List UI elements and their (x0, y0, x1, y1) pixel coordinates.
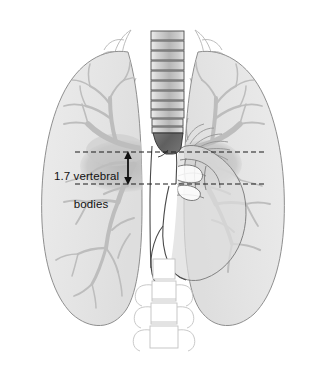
measurement-label-line-1: 1.7 vertebral (52, 169, 138, 183)
measurement-label: 1.7 vertebral bodies (52, 155, 138, 225)
measurement-label-line-2: bodies (52, 197, 138, 211)
anatomy-diagram (0, 0, 326, 365)
chest-anatomy-figure: 1.7 vertebral bodies (0, 0, 326, 365)
thoracic-vertebral-column (151, 31, 184, 133)
lumbar-vertebral-column (150, 259, 178, 348)
